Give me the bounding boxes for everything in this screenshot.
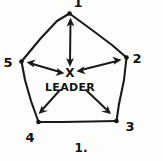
vertex-label-3: 3 (125, 119, 134, 134)
arrow-head-in-v2 (77, 66, 86, 74)
vertex-dot-3 (114, 119, 119, 124)
vertex-label-2: 2 (132, 51, 141, 66)
pentagon-edge-1-2 (70, 14, 127, 58)
pentagon-edge-3-4 (39, 121, 117, 122)
vertex-label-4: 4 (25, 130, 34, 145)
center-x-mark: X (65, 66, 75, 80)
arrow-shaft-v5 (31, 64, 60, 73)
vertex-label-1: 1 (73, 0, 82, 10)
pentagon-edge-5-1 (22, 14, 70, 62)
vertex-dot-5 (19, 59, 24, 64)
arrow-center-to-vertex-1 (66, 18, 74, 68)
arrow-shaft-v1 (70, 22, 71, 63)
arrow-shaft-v2 (81, 61, 117, 70)
vertex-label-5: 5 (3, 55, 12, 70)
pentagon-edge-2-3 (117, 58, 127, 122)
pentagon-leader-diagram: X LEADER 1 2 3 4 5 1. (0, 0, 163, 161)
vertex-dot-2 (124, 55, 129, 60)
figure-caption: 1. (75, 141, 88, 155)
arrow-center-to-vertex-2 (77, 57, 122, 75)
vertex-dot-1 (67, 11, 72, 16)
center-leader-label: LEADER (45, 81, 95, 94)
vertex-dot-4 (36, 120, 41, 125)
arrow-head-out-v2 (112, 57, 121, 65)
pentagon-edge-4-5 (22, 62, 39, 123)
figure-container: X LEADER 1 2 3 4 5 1. (0, 0, 163, 161)
arrow-center-to-vertex-5 (27, 59, 65, 76)
